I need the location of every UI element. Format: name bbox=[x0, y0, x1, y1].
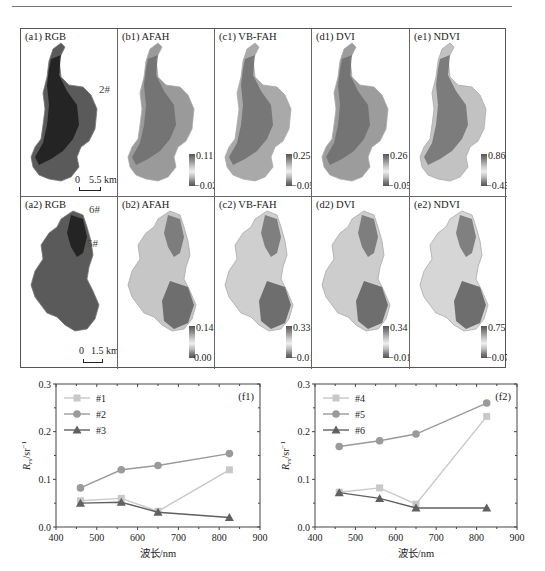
colorbar-min-label: −0.43 bbox=[486, 180, 507, 191]
chart-panel-label: (f2) bbox=[495, 391, 511, 403]
colorbar-min-label: −0.02 bbox=[194, 180, 215, 191]
legend-entry-label: #4 bbox=[355, 393, 365, 404]
map-panel-afah-2: (b2) AFAH0.140.00 bbox=[118, 197, 215, 369]
map-panel-ndvi-1: (e1) NDVI0.86−0.43 bbox=[410, 29, 507, 197]
square-marker-icon bbox=[226, 466, 233, 473]
series-line-site-1 bbox=[80, 470, 229, 511]
lake-map-image bbox=[21, 29, 118, 197]
lake-map-image bbox=[118, 29, 215, 197]
panel-label: (e2) NDVI bbox=[414, 199, 460, 210]
lake-map-image bbox=[215, 29, 312, 197]
lake-map-image bbox=[410, 29, 507, 197]
lake-map-image bbox=[312, 29, 410, 197]
panel-label: (d1) DVI bbox=[316, 31, 355, 42]
scale-bar-line bbox=[79, 187, 101, 191]
square-marker-icon bbox=[333, 395, 340, 402]
site-tag: 5# bbox=[87, 237, 98, 249]
map-panel-ndvi-2: (e2) NDVI0.75−0.07 bbox=[410, 197, 507, 369]
site-tag: 6# bbox=[89, 203, 100, 215]
circle-marker-icon bbox=[483, 399, 491, 407]
legend-entry-label: #6 bbox=[355, 425, 365, 436]
square-marker-icon bbox=[376, 484, 383, 491]
circle-marker-icon bbox=[73, 410, 81, 418]
legend-entry-label: #2 bbox=[96, 409, 106, 420]
circle-marker-icon bbox=[154, 462, 162, 470]
legend-entry-label: #3 bbox=[96, 425, 106, 436]
colorbar-min-label: −0.05 bbox=[388, 180, 410, 191]
colorbar-max-label: 0.34 bbox=[390, 322, 408, 333]
colorbar-min-label: −0.01 bbox=[388, 352, 410, 363]
site-tag: 2# bbox=[99, 83, 110, 95]
x-tick-label: 400 bbox=[49, 532, 64, 543]
square-marker-icon bbox=[483, 413, 490, 420]
scale-bar-line bbox=[83, 359, 103, 363]
lake-map-image bbox=[118, 197, 215, 369]
x-tick-label: 500 bbox=[89, 532, 104, 543]
x-tick-label: 900 bbox=[510, 532, 525, 543]
panel-label: (e1) NDVI bbox=[414, 31, 460, 42]
y-tick-label: 0.3 bbox=[298, 379, 311, 390]
map-panel-afah-1: (b1) AFAH0.11−0.02 bbox=[118, 29, 215, 197]
x-tick-label: 500 bbox=[348, 532, 363, 543]
panel-label: (b1) AFAH bbox=[122, 31, 169, 42]
page-header-rule bbox=[12, 6, 512, 7]
circle-marker-icon bbox=[226, 450, 234, 458]
circle-marker-icon bbox=[376, 437, 384, 445]
map-panel-vb-fah-2: (c2) VB-FAH0.33−0.01 bbox=[215, 197, 312, 369]
legend-entry-label: #1 bbox=[96, 393, 106, 404]
chart-panel-label: (f1) bbox=[238, 391, 254, 403]
colorbar-max-label: 0.75 bbox=[488, 322, 506, 333]
y-tick-label: 0.3 bbox=[39, 379, 52, 390]
legend-entry-label: #5 bbox=[355, 409, 365, 420]
colorbar-min-label: −0.01 bbox=[291, 352, 312, 363]
x-tick-label: 600 bbox=[130, 532, 145, 543]
x-tick-label: 700 bbox=[429, 532, 444, 543]
x-tick-label: 800 bbox=[469, 532, 484, 543]
x-axis-label: 波长/nm bbox=[140, 547, 176, 559]
y-axis-label: Rrs/sr−1 bbox=[279, 440, 293, 471]
colorbar-min-label: −0.07 bbox=[486, 352, 507, 363]
square-marker-icon bbox=[74, 395, 81, 402]
lake-map-image bbox=[215, 197, 312, 369]
colorbar-max-label: 0.14 bbox=[196, 322, 214, 333]
x-tick-label: 700 bbox=[171, 532, 186, 543]
colorbar-min-label: −0.05 bbox=[291, 180, 312, 191]
circle-marker-icon bbox=[117, 466, 125, 474]
colorbar-max-label: 0.25 bbox=[293, 150, 311, 161]
y-tick-label: 0.0 bbox=[298, 522, 311, 533]
circle-marker-icon bbox=[332, 410, 340, 418]
scale-bar-zero: 0 bbox=[79, 345, 84, 356]
map-panel-grid: (a1) RGB05.5 km2#(b1) AFAH0.11−0.02(c1) … bbox=[20, 28, 506, 368]
circle-marker-icon bbox=[335, 443, 343, 451]
map-panel-rgb-2: (a2) RGB01.5 km6#5# bbox=[21, 197, 118, 369]
panel-label: (b2) AFAH bbox=[122, 199, 169, 210]
map-panel-rgb-1: (a1) RGB05.5 km2# bbox=[21, 29, 118, 197]
lake-map-image bbox=[410, 197, 507, 369]
scale-bar-length: 1.5 km bbox=[91, 345, 118, 356]
x-axis-label: 波长/nm bbox=[398, 547, 434, 559]
colorbar-min-label: 0.00 bbox=[194, 352, 212, 363]
x-tick-label: 800 bbox=[212, 532, 227, 543]
panel-label: (a2) RGB bbox=[25, 199, 66, 210]
panel-label: (a1) RGB bbox=[25, 31, 66, 42]
map-panel-dvi-1: (d1) DVI0.26−0.05 bbox=[312, 29, 410, 197]
lake-map-image bbox=[21, 197, 118, 369]
y-tick-label: 0.1 bbox=[39, 474, 52, 485]
colorbar-max-label: 0.33 bbox=[293, 322, 311, 333]
circle-marker-icon bbox=[412, 430, 420, 438]
colorbar-max-label: 0.26 bbox=[390, 150, 408, 161]
y-tick-label: 0.2 bbox=[298, 426, 311, 437]
x-tick-label: 400 bbox=[308, 532, 323, 543]
colorbar-max-label: 0.86 bbox=[488, 150, 506, 161]
chart-f1: 4005006007008009000.00.10.20.3波长/nmRrs/s… bbox=[0, 376, 272, 571]
scale-bar-zero: 0 bbox=[75, 174, 80, 185]
map-panel-dvi-2: (d2) DVI0.34−0.01 bbox=[312, 197, 410, 369]
circle-marker-icon bbox=[77, 484, 85, 492]
x-tick-label: 600 bbox=[388, 532, 403, 543]
chart-f2: 4005006007008009000.00.10.20.3波长/nmRrs/s… bbox=[262, 376, 545, 571]
colorbar-max-label: 0.11 bbox=[196, 150, 213, 161]
panel-label: (d2) DVI bbox=[316, 199, 355, 210]
panel-label: (c1) VB-FAH bbox=[219, 31, 277, 42]
map-panel-vb-fah-1: (c1) VB-FAH0.25−0.05 bbox=[215, 29, 312, 197]
y-tick-label: 0.2 bbox=[39, 426, 52, 437]
